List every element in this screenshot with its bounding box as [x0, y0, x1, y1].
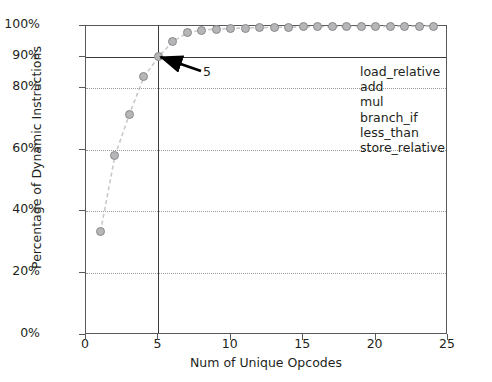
chart-figure: 0%20%40%60%80%90%100% 0510152025 Percent…: [0, 0, 492, 382]
x-tick-mark: [302, 334, 303, 340]
opcode-item-less-than: less_than: [360, 125, 445, 140]
y-tick-mark: [79, 149, 85, 150]
y-axis-label: Percentage of Dynamic Instructions: [29, 38, 44, 278]
data-point: [212, 25, 221, 34]
gridline-20: [86, 273, 446, 274]
data-point: [125, 110, 134, 119]
x-tick-mark: [85, 334, 86, 340]
data-point: [415, 22, 424, 31]
data-point: [371, 22, 380, 31]
y-tick-label-0: 0%: [20, 327, 40, 340]
data-point: [96, 227, 105, 236]
data-point: [197, 26, 206, 35]
data-point: [270, 23, 279, 32]
y-tick-mark: [79, 25, 85, 26]
data-point: [328, 22, 337, 31]
data-point: [429, 22, 438, 31]
y-tick-mark: [79, 87, 85, 88]
x-tick-mark: [157, 334, 158, 340]
opcode-item-add: add: [360, 79, 445, 94]
y-tick-mark: [79, 272, 85, 273]
opcode-item-mul: mul: [360, 94, 445, 109]
x-axis-label: Num of Unique Opcodes: [85, 355, 447, 370]
opcode-item-load-relative: load_relative: [360, 64, 445, 79]
y-tick-label-100: 100%: [4, 18, 40, 31]
x-tick-mark: [447, 334, 448, 340]
data-point: [386, 22, 395, 31]
data-point: [357, 22, 366, 31]
data-point: [284, 23, 293, 32]
data-point: [400, 22, 409, 31]
reference-line-horizontal-90: [86, 57, 446, 58]
opcode-list: load_relativeaddmulbranch_ifless_thansto…: [360, 64, 445, 155]
opcode-item-branch-if: branch_if: [360, 110, 445, 125]
reference-line-vertical-5: [158, 26, 159, 333]
y-tick-mark: [79, 56, 85, 57]
x-tick-mark: [230, 334, 231, 340]
gridline-40: [86, 211, 446, 212]
annotation-label: 5: [203, 64, 211, 79]
data-point: [241, 24, 250, 33]
y-tick-mark: [79, 210, 85, 211]
opcode-item-store-relative: store_relative: [360, 140, 445, 155]
x-tick-mark: [375, 334, 376, 340]
